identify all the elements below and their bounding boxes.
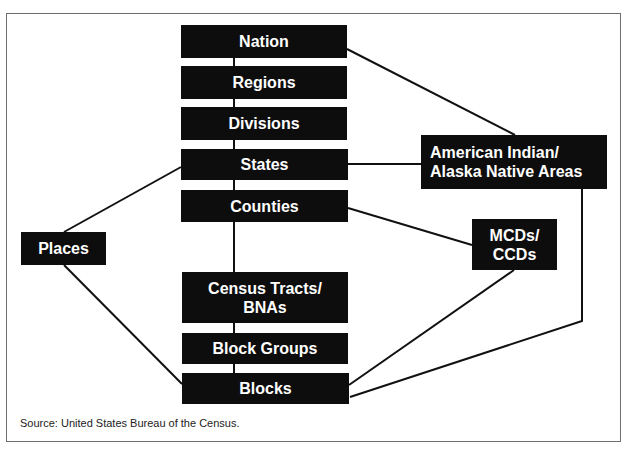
node-nation: Nation (181, 25, 347, 58)
node-census-tracts: Census Tracts/ BNAs (182, 272, 348, 323)
node-label: Divisions (228, 114, 299, 133)
node-label: Block Groups (213, 339, 318, 358)
node-block-groups: Block Groups (182, 333, 348, 364)
node-regions: Regions (181, 66, 347, 99)
node-label: MCDs/ CCDs (490, 226, 540, 264)
node-label: Census Tracts/ BNAs (208, 279, 322, 317)
source-caption: Source: United States Bureau of the Cens… (20, 417, 240, 429)
node-label: Blocks (239, 379, 291, 398)
node-divisions: Divisions (181, 107, 347, 140)
node-counties: Counties (181, 190, 348, 222)
node-blocks: Blocks (182, 373, 349, 404)
node-label: Counties (230, 197, 298, 216)
node-places: Places (21, 232, 106, 265)
node-label: Places (38, 239, 89, 258)
node-mcds-ccds: MCDs/ CCDs (472, 219, 557, 270)
node-label: Nation (239, 32, 289, 51)
node-label: States (240, 155, 288, 174)
node-label: American Indian/ Alaska Native Areas (430, 143, 582, 181)
node-american-indian-areas: American Indian/ Alaska Native Areas (421, 135, 607, 189)
node-label: Regions (232, 73, 295, 92)
node-states: States (181, 149, 348, 180)
